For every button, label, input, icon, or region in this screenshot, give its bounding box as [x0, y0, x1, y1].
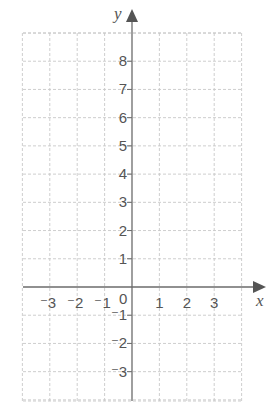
- y-tick-label: ⁻3: [111, 363, 127, 380]
- y-axis-label: y: [112, 4, 122, 23]
- x-axis-label: x: [255, 291, 264, 310]
- y-axis-arrow-icon: [126, 9, 138, 22]
- coordinate-plane: ⁻3⁻2⁻112387654321⁻1⁻2⁻3 x y 0: [0, 0, 280, 419]
- x-tick-label: ⁻2: [67, 294, 83, 311]
- x-tick-label: ⁻1: [94, 294, 110, 311]
- y-tick-label: 1: [119, 250, 127, 267]
- x-tick-label: 3: [210, 294, 218, 311]
- axes: [23, 9, 266, 401]
- x-tick-label: 1: [155, 294, 163, 311]
- origin-label: 0: [119, 290, 127, 307]
- tick-labels: ⁻3⁻2⁻112387654321⁻1⁻2⁻3: [40, 52, 219, 379]
- x-tick-label: ⁻3: [40, 294, 56, 311]
- y-tick-label: ⁻1: [111, 306, 127, 323]
- x-tick-label: 2: [183, 294, 191, 311]
- y-tick-label: 3: [119, 193, 127, 210]
- y-tick-label: 5: [119, 137, 127, 154]
- y-tick-label: 6: [119, 109, 127, 126]
- y-tick-label: 8: [119, 52, 127, 69]
- y-tick-label: 2: [119, 222, 127, 239]
- y-tick-label: 7: [119, 80, 127, 97]
- y-tick-label: ⁻2: [111, 334, 127, 351]
- y-tick-label: 4: [119, 165, 127, 182]
